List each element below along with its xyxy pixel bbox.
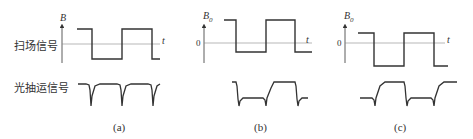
x-axis-label-a: t: [162, 35, 165, 46]
caption-b: (b): [254, 121, 267, 133]
caption-c: (c): [394, 121, 406, 133]
y-axis-label-a: B: [60, 12, 66, 23]
y-axis-label-c: B0: [344, 10, 354, 24]
y-axis-label-b: B0: [203, 10, 213, 24]
x-axis-label-b: t: [306, 34, 309, 45]
panel-c: [345, 26, 457, 106]
panel-b: [204, 20, 312, 106]
zero-label-c: 0: [337, 38, 342, 48]
x-axis-label-c: t: [447, 34, 450, 45]
scan-waveform-b: [224, 20, 312, 52]
pump-waveform-b: [232, 82, 308, 106]
pump-waveform-a: [78, 84, 160, 106]
scan-waveform-c: [358, 33, 448, 66]
pump-waveform-c: [360, 82, 457, 106]
panel-a: [62, 26, 160, 106]
signal-diagram: [0, 0, 473, 139]
zero-label-b: 0: [196, 38, 201, 48]
caption-a: (a): [113, 121, 125, 133]
